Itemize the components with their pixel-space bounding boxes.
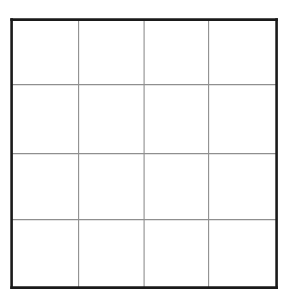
grid-cell-r2c2[interactable] <box>79 85 145 154</box>
grid-cell-r3c2[interactable] <box>79 154 145 220</box>
grid-cell-r1c1[interactable] <box>12 20 79 85</box>
grid-cell-r1c3[interactable] <box>144 20 209 85</box>
grid-figure <box>9 17 279 290</box>
grid-cell-r1c2[interactable] <box>79 20 145 85</box>
grid-cell-r3c3[interactable] <box>144 154 209 220</box>
grid-cell-r1c4[interactable] <box>209 20 277 85</box>
grid-cell-r2c3[interactable] <box>144 85 209 154</box>
grid-cell-r3c4[interactable] <box>209 154 277 220</box>
grid-cell-r3c1[interactable] <box>12 154 79 220</box>
grid-cell-r4c1[interactable] <box>12 220 79 288</box>
grid-cell-r4c3[interactable] <box>144 220 209 288</box>
grid-cell-r2c1[interactable] <box>12 85 79 154</box>
grid-cell-r2c4[interactable] <box>209 85 277 154</box>
canvas <box>0 0 291 305</box>
grid-cell-r4c2[interactable] <box>79 220 145 288</box>
grid-cell-r4c4[interactable] <box>209 220 277 288</box>
